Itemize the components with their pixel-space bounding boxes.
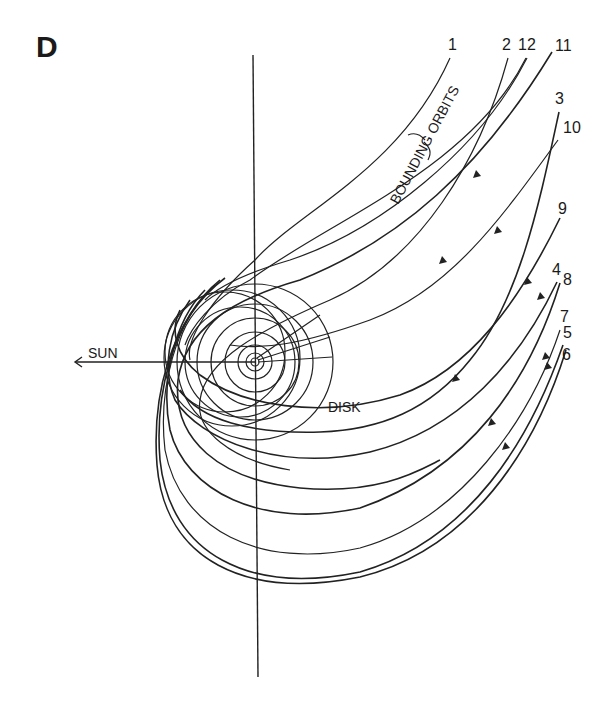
orbit-label-6: 6 [562, 346, 571, 363]
direction-arrows [439, 170, 552, 450]
orbit-label-5: 5 [563, 324, 572, 341]
disk-label: DISK [328, 399, 361, 415]
orbit-3 [180, 112, 559, 432]
diagram-canvas: 1 2 12 11 3 10 9 4 8 7 5 6 SUN DISK BOUN… [0, 0, 610, 716]
orbit-label-1: 1 [448, 36, 457, 53]
orbit-10 [230, 140, 558, 347]
orbit-label-7: 7 [560, 308, 569, 325]
bounding-orbits [185, 58, 526, 360]
orbit-label-10: 10 [563, 119, 581, 136]
orbit-5 [159, 280, 563, 578]
orbit-label-3: 3 [555, 90, 564, 107]
orbit-label-11: 11 [555, 37, 572, 54]
orbit-label-2: 2 [502, 36, 511, 53]
bounding-orbits-label: BOUNDING ORBITS [387, 83, 463, 207]
orbit-label-12: 12 [518, 36, 536, 53]
sun-label: SUN [88, 345, 118, 361]
orbit-label-8: 8 [563, 271, 572, 288]
orbit-diagram: D [0, 0, 610, 716]
panel-label: D [36, 30, 58, 64]
orbit-label-4: 4 [552, 261, 561, 278]
orbit-label-9: 9 [558, 200, 567, 217]
